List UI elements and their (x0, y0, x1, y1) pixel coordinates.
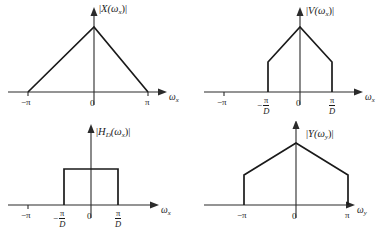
plot-y-axis-label: ωy (357, 206, 367, 216)
plot-panel-x-spectrum: |X(ωx)| ωx −π 0 π (0, 0, 195, 121)
plot-v-axis-label: ωx (365, 93, 375, 103)
spectrum-curve-triangle (28, 27, 148, 92)
plot-x-function-label: |X(ωx)| (99, 4, 127, 16)
plot-y-graphic (196, 121, 391, 242)
plot-x-tick-label-pos-pi: π (145, 98, 150, 107)
plot-y-tick-label-pos-pi: π (345, 211, 350, 220)
plot-v-tick-label-neg-pi-over-d: −πD (257, 96, 269, 115)
x-axis-arrowhead (354, 89, 363, 96)
plot-v-function-label: |V(ωx)| (306, 6, 334, 18)
plot-y-tick-label-neg-pi: −π (237, 211, 247, 220)
x-axis-arrowhead (158, 89, 167, 96)
x-axis-arrowhead (150, 202, 159, 209)
plot-v-tick-label-pos-pi-over-d: πD (329, 96, 335, 115)
plot-v-tick-label-origin: 0 (296, 99, 301, 108)
plot-hd-tick-label-pos-pi-over-d: πD (115, 209, 121, 228)
plot-x-tick-label-neg-pi: −π (21, 98, 31, 107)
plot-y-tick-label-origin: 0 (292, 212, 297, 221)
plot-hd-tick-label-neg-pi-over-d: −πD (53, 209, 65, 228)
y-axis-arrowhead (91, 7, 98, 16)
plot-y-function-label: |Y(ωy)| (306, 129, 334, 141)
plot-hd-function-label: |HD(ωx)| (96, 127, 130, 139)
y-axis-arrowhead (297, 7, 304, 16)
plot-panel-hd-filter: |HD(ωx)| ωx −π −πD 0 πD (0, 121, 195, 242)
signal-spectra-figure: |X(ωx)| ωx −π 0 π |V(ωx)| ωx −π −πD 0 πD (0, 0, 391, 243)
plot-hd-graphic (0, 121, 195, 242)
plot-x-tick-label-origin: 0 (90, 99, 95, 108)
plot-panel-v-spectrum: |V(ωx)| ωx −π −πD 0 πD (196, 0, 391, 121)
y-axis-arrowhead (293, 121, 300, 129)
plot-x-axis-label: ωx (169, 93, 179, 103)
plot-panel-y-spectrum: |Y(ωy)| ωy −π 0 π (196, 121, 391, 242)
plot-hd-tick-label-neg-pi: −π (21, 211, 31, 220)
y-axis-arrowhead (88, 124, 95, 133)
plot-hd-axis-label: ωx (161, 206, 171, 216)
plot-v-tick-label-neg-pi: −π (217, 98, 227, 107)
plot-hd-tick-label-origin: 0 (87, 212, 92, 221)
